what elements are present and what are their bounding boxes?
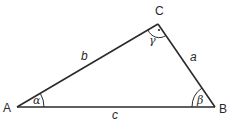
triangle-diagram: A B C b a c α β γ bbox=[0, 0, 232, 124]
angle-gamma-label: γ bbox=[149, 34, 156, 47]
side-c-label: c bbox=[112, 108, 118, 122]
vertex-a-label: A bbox=[3, 101, 11, 115]
angle-alpha-arc bbox=[40, 93, 44, 107]
angle-alpha-label: α bbox=[33, 94, 41, 107]
right-angle-dot bbox=[158, 29, 160, 31]
angle-beta-label: β bbox=[196, 94, 203, 107]
side-b-label: b bbox=[81, 49, 88, 63]
side-a-label: a bbox=[190, 50, 197, 64]
side-a-line bbox=[158, 24, 215, 107]
vertex-b-label: B bbox=[219, 102, 227, 116]
vertex-c-label: C bbox=[155, 4, 164, 18]
